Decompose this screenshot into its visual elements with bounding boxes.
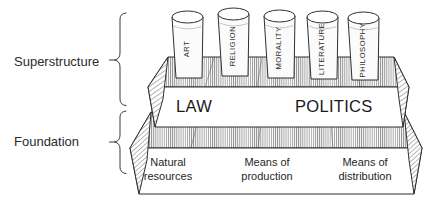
foundation-label-text: Foundation [14, 134, 79, 149]
foundation-brace [115, 111, 127, 174]
side-label-foundation: Foundation [14, 111, 126, 174]
diagram-root: Superstructure Foundation [0, 0, 429, 204]
pillar-philosophy: PHILOSOPHY [348, 12, 379, 80]
law-label: LAW [176, 97, 212, 115]
natural-resources-line1: Natural [150, 156, 185, 168]
means-of-production-line2: production [241, 170, 292, 182]
side-label-superstructure: Superstructure [14, 13, 126, 106]
pillar-literature-label: LITERATURE [317, 23, 326, 75]
superstructure-brace [115, 13, 127, 106]
pillar-religion: RELIGION [218, 8, 249, 76]
natural-resources-line2: resources [144, 170, 193, 182]
pillar-religion-label: RELIGION [228, 26, 237, 67]
means-of-distribution-line1: Means of [342, 156, 388, 168]
pillar-art: ART [172, 11, 203, 78]
means-of-distribution-line2: distribution [338, 170, 391, 182]
superstructure-label-text: Superstructure [14, 54, 99, 69]
pillar-morality-label: MORALITY [274, 26, 283, 69]
politics-label: POLITICS [295, 97, 373, 115]
means-of-production-line1: Means of [244, 156, 290, 168]
pillar-philosophy-label: PHILOSOPHY [358, 23, 367, 78]
pillar-literature: LITERATURE [307, 11, 338, 79]
pillar-morality: MORALITY [264, 10, 295, 78]
base-superstructure-diagram: Superstructure Foundation [0, 0, 429, 204]
pillar-art-label: ART [182, 41, 191, 58]
